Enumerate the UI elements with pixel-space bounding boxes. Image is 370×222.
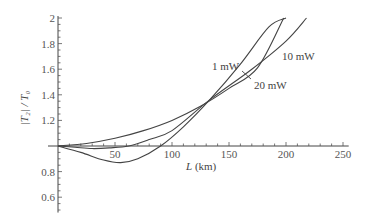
y-tick-label: 1.2	[41, 114, 55, 126]
y-tick-label: 1.6	[41, 63, 55, 75]
series-curve-20mw	[58, 18, 286, 163]
x-tick-label: 150	[221, 148, 238, 160]
series-label-1mw: 1 mW	[212, 60, 240, 72]
y-tick-label: 1.4	[41, 89, 55, 101]
series-label-20mw: 20 mW	[254, 79, 287, 91]
y-tick-label: 0.8	[41, 166, 55, 178]
x-tick-label: 100	[164, 148, 181, 160]
plot-area: 501001502002500.60.81.21.41.61.82 1 mW 1…	[0, 0, 370, 222]
series-curve-1mw	[58, 18, 284, 146]
x-axis-variable: L	[185, 160, 192, 172]
chart: 501001502002500.60.81.21.41.61.82 1 mW 1…	[0, 0, 370, 222]
x-axis-title: L (km)	[185, 160, 217, 173]
x-tick-label: 250	[335, 148, 352, 160]
series-label-10mw: 10 mW	[282, 50, 315, 62]
axes: 501001502002500.60.81.21.41.61.82	[41, 12, 352, 213]
x-tick-label: 50	[110, 148, 122, 160]
y-tick-label: 1.8	[41, 38, 55, 50]
x-tick-label: 200	[278, 148, 295, 160]
y-axis-title: |T₂| / T₀	[18, 91, 30, 126]
y-tick-label: 2	[50, 12, 56, 24]
x-axis-unit: (km)	[192, 160, 216, 173]
y-tick-label: 0.6	[41, 191, 55, 203]
